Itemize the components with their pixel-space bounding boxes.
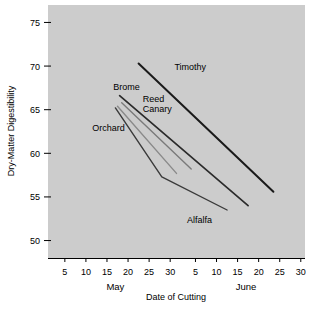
x-tick-label: 25 [275, 267, 285, 277]
series-label: Timothy [174, 62, 206, 72]
series-label: Orchard [92, 123, 125, 133]
x-tick-label: 10 [81, 267, 91, 277]
y-tick-label: 75 [30, 18, 40, 28]
x-axis-title: Date of Cutting [146, 292, 206, 302]
x-tick-label: 15 [233, 267, 243, 277]
y-tick-label: 55 [30, 192, 40, 202]
month-label: June [236, 281, 257, 292]
x-tick-label: 15 [102, 267, 112, 277]
x-tick-label: 5 [62, 267, 67, 277]
y-axis-title: Dry-Matter Digestibility [6, 85, 16, 176]
x-tick-label: 20 [123, 267, 133, 277]
y-tick-label: 70 [30, 62, 40, 72]
month-label: May [106, 281, 124, 292]
y-tick-label: 60 [30, 149, 40, 159]
x-axis-tick-labels: 5101520253051015202530 [62, 267, 305, 277]
y-tick-label: 50 [30, 236, 40, 246]
x-tick-label: 10 [212, 267, 222, 277]
x-tick-label: 20 [254, 267, 264, 277]
chart-container: 505560657075 5101520253051015202530 MayJ… [0, 0, 314, 313]
series-label: Brome [113, 82, 140, 92]
line-chart: 505560657075 5101520253051015202530 MayJ… [0, 0, 314, 313]
x-tick-label: 25 [144, 267, 154, 277]
month-labels: MayJune [106, 281, 256, 292]
plot-background [48, 5, 305, 258]
series-label: Alfalfa [187, 215, 212, 225]
x-tick-label: 30 [165, 267, 175, 277]
y-tick-label: 65 [30, 105, 40, 115]
x-tick-label: 30 [296, 267, 306, 277]
y-axis-tick-labels: 505560657075 [30, 18, 40, 246]
x-tick-label: 5 [193, 267, 198, 277]
